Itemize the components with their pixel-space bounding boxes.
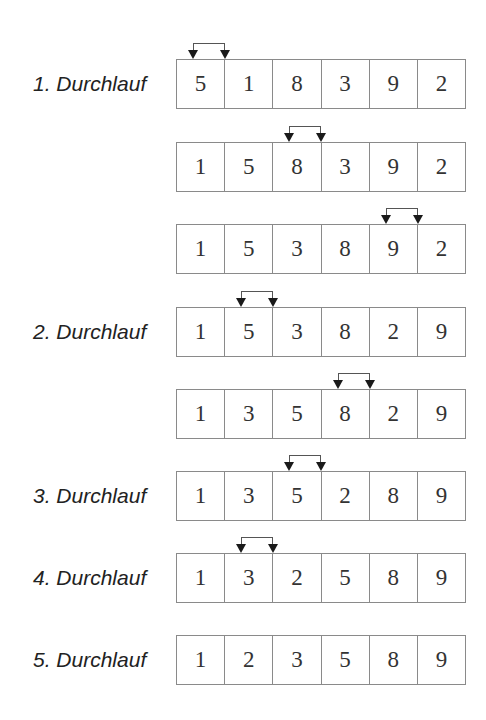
array-cell: 8: [369, 636, 417, 684]
array-cell: 1: [177, 143, 224, 191]
array-cell: 2: [369, 390, 417, 438]
arrow-down-icon: [365, 380, 375, 389]
array-cell: 2: [417, 143, 465, 191]
array-row: 1 3 5 2 8 9: [176, 471, 466, 521]
arrow-down-icon: [316, 462, 326, 471]
array-cell: 5: [224, 308, 272, 356]
array-cell: 5: [224, 225, 272, 273]
array-cell: 8: [321, 225, 369, 273]
pass-label-4: 4. Durchlauf: [33, 553, 173, 603]
arrow-down-icon: [381, 215, 391, 224]
array-cell: 3: [272, 636, 320, 684]
array-row: 1 3 5 8 2 9: [176, 389, 466, 439]
array-cell: 5: [321, 636, 369, 684]
array-cell: 3: [272, 308, 320, 356]
array-cell: 8: [369, 472, 417, 520]
swap-indicator: [236, 291, 278, 307]
swap-indicator: [236, 537, 278, 553]
pass-label-3: 3. Durchlauf: [33, 471, 173, 521]
array-cell: 8: [272, 143, 320, 191]
array-cell: 2: [369, 308, 417, 356]
array-cell: 9: [417, 308, 465, 356]
array-cell: 8: [321, 308, 369, 356]
arrow-down-icon: [236, 544, 246, 553]
array-cell: 1: [177, 225, 224, 273]
array-cell: 5: [272, 472, 320, 520]
array-cell: 3: [224, 554, 272, 602]
array-cell: 2: [224, 636, 272, 684]
swap-indicator: [381, 208, 423, 224]
swap-indicator: [333, 373, 375, 389]
array-row: 5 1 8 3 9 2: [176, 59, 466, 109]
array-cell: 8: [369, 554, 417, 602]
array-cell: 3: [224, 390, 272, 438]
swap-indicator: [284, 126, 326, 142]
arrow-down-icon: [333, 380, 343, 389]
arrow-down-icon: [316, 133, 326, 142]
pass-label-1: 1. Durchlauf: [33, 59, 173, 109]
array-cell: 2: [417, 225, 465, 273]
array-cell: 3: [321, 143, 369, 191]
arrow-down-icon: [413, 215, 423, 224]
pass-label-2: 2. Durchlauf: [33, 307, 173, 357]
array-cell: 1: [177, 390, 224, 438]
array-cell: 5: [177, 60, 224, 108]
array-cell: 3: [224, 472, 272, 520]
array-row: 1 5 3 8 2 9: [176, 307, 466, 357]
array-cell: 1: [177, 554, 224, 602]
array-cell: 8: [321, 390, 369, 438]
arrow-down-icon: [220, 50, 230, 59]
arrow-down-icon: [268, 298, 278, 307]
arrow-down-icon: [236, 298, 246, 307]
arrow-down-icon: [284, 133, 294, 142]
arrow-down-icon: [268, 544, 278, 553]
array-cell: 2: [272, 554, 320, 602]
arrow-down-icon: [188, 50, 198, 59]
array-row: 1 3 2 5 8 9: [176, 553, 466, 603]
swap-indicator: [284, 455, 326, 471]
array-cell: 1: [177, 308, 224, 356]
array-cell: 5: [272, 390, 320, 438]
array-cell: 1: [177, 636, 224, 684]
array-cell: 5: [224, 143, 272, 191]
array-cell: 3: [321, 60, 369, 108]
array-cell: 5: [321, 554, 369, 602]
array-cell: 9: [369, 143, 417, 191]
array-cell: 8: [272, 60, 320, 108]
array-row: 1 5 8 3 9 2: [176, 142, 466, 192]
array-cell: 9: [417, 472, 465, 520]
array-cell: 1: [177, 472, 224, 520]
pass-label-5: 5. Durchlauf: [33, 635, 173, 685]
array-cell: 9: [417, 390, 465, 438]
array-row: 1 5 3 8 9 2: [176, 224, 466, 274]
array-cell: 9: [369, 225, 417, 273]
array-cell: 9: [417, 636, 465, 684]
array-cell: 9: [417, 554, 465, 602]
swap-indicator: [188, 43, 230, 59]
array-cell: 9: [369, 60, 417, 108]
array-cell: 1: [224, 60, 272, 108]
array-row: 1 2 3 5 8 9: [176, 635, 466, 685]
arrow-down-icon: [284, 462, 294, 471]
array-cell: 2: [321, 472, 369, 520]
array-cell: 3: [272, 225, 320, 273]
array-cell: 2: [417, 60, 465, 108]
